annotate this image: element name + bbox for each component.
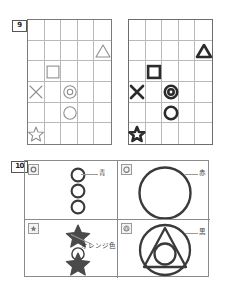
nested-shapes-thumbnail-icon	[121, 223, 132, 234]
big-circle-thumbnail-glyph	[123, 166, 130, 173]
panel-bottom-left-shapes	[63, 224, 93, 276]
caption-bottom-left: オレンジ色	[81, 243, 116, 250]
leader-line-bottom-right	[185, 233, 198, 234]
panel-top-right: 赤	[117, 161, 210, 219]
problem-10-figure: 10 青	[0, 0, 228, 295]
problem-10-panel-frame: 青 赤	[24, 160, 209, 277]
panel-bottom-right-nested-shapes	[137, 223, 193, 277]
caption-top-right: 赤	[199, 170, 206, 177]
nested-shapes-thumbnail-glyph	[123, 225, 130, 232]
panel-bottom-left: オレンジ色	[25, 219, 117, 278]
panel-bottom-right: 黒	[117, 219, 210, 278]
star-thumbnail-glyph	[30, 225, 37, 232]
star-thumbnail-icon	[28, 223, 39, 234]
caption-top-left: 青	[99, 170, 106, 177]
big-circle-thumbnail-icon	[121, 164, 132, 175]
panel-top-left: 青	[25, 161, 117, 219]
caption-bottom-right: 黒	[199, 229, 206, 236]
circle-thumbnail-icon	[28, 164, 39, 175]
leader-line-top-left	[81, 174, 98, 175]
circle-thumbnail-glyph	[30, 166, 37, 173]
leader-line-top-right	[185, 174, 198, 175]
